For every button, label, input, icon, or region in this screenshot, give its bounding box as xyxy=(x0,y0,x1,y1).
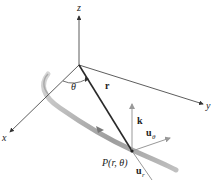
theta-label: θ xyxy=(71,81,76,92)
z-axis-label: z xyxy=(76,2,81,13)
r-label: r xyxy=(105,80,110,91)
cylindrical-coordinates-diagram: z x y θ r k u θ u r P(r, θ) xyxy=(0,0,220,180)
u-theta-subscript: θ xyxy=(152,133,156,141)
point-p-label: P(r, θ) xyxy=(101,157,128,169)
point-p xyxy=(130,149,133,152)
u-r-subscript: r xyxy=(142,171,145,179)
y-axis xyxy=(79,65,203,104)
u-theta-vector xyxy=(132,138,170,151)
y-axis-label: y xyxy=(205,100,211,111)
x-axis-label: x xyxy=(1,132,7,143)
k-label: k xyxy=(137,115,143,126)
particle-path xyxy=(44,74,176,170)
